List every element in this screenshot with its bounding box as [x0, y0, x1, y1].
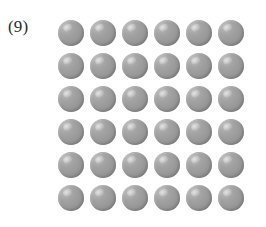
sphere-cell	[218, 20, 250, 53]
figure-container: (9)	[0, 0, 266, 227]
gray-sphere-icon	[122, 152, 148, 178]
sphere-cell	[122, 152, 154, 185]
gray-sphere-icon	[122, 185, 148, 211]
sphere-cell	[58, 185, 90, 218]
sphere-grid	[58, 20, 250, 218]
gray-sphere-icon	[122, 20, 148, 46]
gray-sphere-icon	[218, 86, 244, 112]
gray-sphere-icon	[58, 119, 84, 145]
sphere-cell	[218, 53, 250, 86]
sphere-cell	[58, 53, 90, 86]
gray-sphere-icon	[122, 53, 148, 79]
gray-sphere-icon	[90, 185, 116, 211]
gray-sphere-icon	[90, 20, 116, 46]
gray-sphere-icon	[218, 20, 244, 46]
sphere-cell	[122, 53, 154, 86]
sphere-cell	[218, 185, 250, 218]
sphere-cell	[154, 119, 186, 152]
sphere-cell	[90, 20, 122, 53]
sphere-cell	[154, 152, 186, 185]
sphere-cell	[218, 86, 250, 119]
sphere-cell	[90, 86, 122, 119]
gray-sphere-icon	[122, 86, 148, 112]
gray-sphere-icon	[90, 152, 116, 178]
sphere-cell	[186, 20, 218, 53]
gray-sphere-icon	[58, 185, 84, 211]
gray-sphere-icon	[186, 53, 212, 79]
sphere-cell	[122, 119, 154, 152]
sphere-cell	[58, 20, 90, 53]
sphere-cell	[186, 152, 218, 185]
gray-sphere-icon	[58, 152, 84, 178]
gray-sphere-icon	[58, 86, 84, 112]
sphere-cell	[186, 53, 218, 86]
gray-sphere-icon	[122, 119, 148, 145]
sphere-cell	[154, 185, 186, 218]
gray-sphere-icon	[186, 152, 212, 178]
sphere-cell	[90, 152, 122, 185]
figure-label: (9)	[8, 17, 28, 37]
gray-sphere-icon	[218, 152, 244, 178]
sphere-cell	[218, 152, 250, 185]
sphere-cell	[122, 185, 154, 218]
gray-sphere-icon	[154, 152, 180, 178]
gray-sphere-icon	[186, 20, 212, 46]
sphere-cell	[154, 53, 186, 86]
sphere-cell	[58, 152, 90, 185]
gray-sphere-icon	[90, 53, 116, 79]
gray-sphere-icon	[186, 119, 212, 145]
gray-sphere-icon	[90, 119, 116, 145]
sphere-cell	[186, 185, 218, 218]
gray-sphere-icon	[154, 185, 180, 211]
sphere-cell	[122, 86, 154, 119]
gray-sphere-icon	[90, 86, 116, 112]
gray-sphere-icon	[218, 53, 244, 79]
gray-sphere-icon	[154, 86, 180, 112]
sphere-cell	[154, 86, 186, 119]
gray-sphere-icon	[218, 185, 244, 211]
sphere-cell	[90, 119, 122, 152]
gray-sphere-icon	[58, 20, 84, 46]
gray-sphere-icon	[186, 86, 212, 112]
sphere-cell	[58, 119, 90, 152]
sphere-cell	[58, 86, 90, 119]
sphere-cell	[90, 185, 122, 218]
gray-sphere-icon	[218, 119, 244, 145]
gray-sphere-icon	[154, 20, 180, 46]
sphere-cell	[154, 20, 186, 53]
sphere-cell	[218, 119, 250, 152]
sphere-cell	[186, 86, 218, 119]
gray-sphere-icon	[186, 185, 212, 211]
gray-sphere-icon	[154, 53, 180, 79]
sphere-cell	[122, 20, 154, 53]
sphere-cell	[186, 119, 218, 152]
gray-sphere-icon	[154, 119, 180, 145]
gray-sphere-icon	[58, 53, 84, 79]
sphere-cell	[90, 53, 122, 86]
